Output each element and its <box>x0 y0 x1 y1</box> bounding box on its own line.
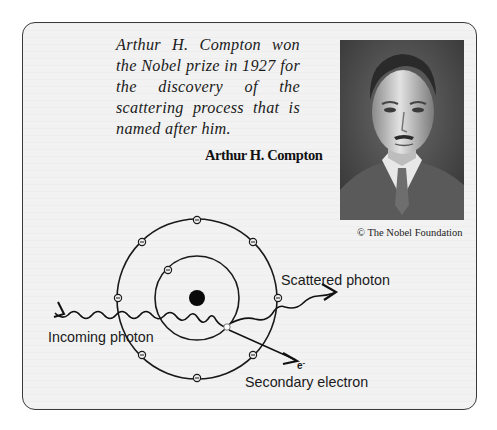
incoming-photon-wave <box>55 312 226 328</box>
label-secondary-electron: Secondary electron <box>245 374 368 390</box>
nucleus-icon <box>189 290 205 306</box>
compton-scattering-diagram <box>0 0 497 430</box>
electron-charge: - <box>303 358 306 367</box>
scattered-photon-wave <box>231 293 334 323</box>
incoming-arrow-icon <box>54 302 64 317</box>
electron-symbol: e- <box>297 358 305 371</box>
ejected-electron <box>224 324 230 330</box>
label-scattered-photon: Scattered photon <box>281 272 390 288</box>
label-incoming-photon: Incoming photon <box>48 329 154 345</box>
secondary-arrow-icon <box>283 353 297 364</box>
